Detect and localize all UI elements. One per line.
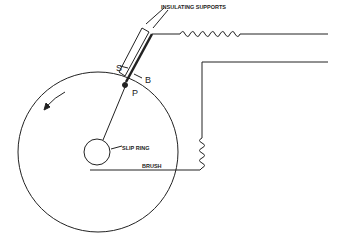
label-b: B [145, 75, 151, 85]
rotation-arrow [46, 92, 65, 107]
slip-ring [84, 139, 110, 165]
radius-line [103, 87, 125, 140]
rotating-disc-diagram: INSULATING SUPPORTS S B P SLIP RING BRUS… [0, 0, 342, 239]
label-brush: BRUSH [142, 163, 162, 169]
label-s: S [116, 63, 122, 73]
label-insulating-supports: INSULATING SUPPORTS [161, 4, 226, 10]
large-disc [18, 72, 178, 232]
return-wire [202, 62, 328, 138]
bottom-inductor-coil [200, 138, 205, 168]
label-p: P [132, 88, 138, 98]
top-inductor-coil [180, 32, 240, 37]
contact-point-p [123, 83, 128, 88]
label-slip-ring: SLIP RING [122, 145, 149, 151]
